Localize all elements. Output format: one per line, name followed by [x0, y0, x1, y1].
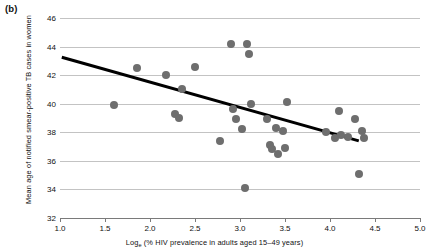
x-tick-label: 4.5 — [355, 224, 395, 233]
figure-panel-b: (b) Mean age of notified smear-positive … — [0, 0, 429, 252]
data-point — [322, 128, 330, 136]
data-point — [344, 133, 352, 141]
x-tick-mark — [240, 218, 241, 222]
y-tick-label: 40 — [30, 99, 56, 108]
data-point — [279, 127, 287, 135]
x-tick-mark — [105, 218, 106, 222]
x-axis-tick-labels: 1.01.52.02.53.03.54.04.55.0 — [60, 218, 420, 238]
y-tick-label: 38 — [30, 128, 56, 137]
x-axis-title-prefix: Log — [126, 238, 139, 247]
x-tick-mark — [195, 218, 196, 222]
data-point — [355, 170, 363, 178]
x-axis-title: Loge (% HIV prevalence in adults aged 15… — [0, 238, 429, 248]
x-tick-label: 2.0 — [130, 224, 170, 233]
data-point — [175, 114, 183, 122]
x-tick-label: 1.0 — [40, 224, 80, 233]
x-tick-mark — [330, 218, 331, 222]
data-point — [281, 144, 289, 152]
x-tick-label: 3.0 — [220, 224, 260, 233]
data-point — [241, 184, 249, 192]
plot-area — [60, 18, 420, 218]
x-tick-label: 1.5 — [85, 224, 125, 233]
data-point — [191, 63, 199, 71]
x-axis-title-rest: (% HIV prevalence in adults aged 15–49 y… — [142, 238, 304, 247]
x-tick-mark — [285, 218, 286, 222]
y-tick-label: 34 — [30, 185, 56, 194]
data-point — [274, 150, 282, 158]
x-tick-mark — [150, 218, 151, 222]
x-tick-mark — [420, 218, 421, 222]
y-tick-label: 36 — [30, 156, 56, 165]
data-point — [243, 40, 251, 48]
data-point — [335, 107, 343, 115]
y-tick-label: 46 — [30, 14, 56, 23]
y-tick-label: 32 — [30, 214, 56, 223]
x-tick-mark — [375, 218, 376, 222]
data-point — [133, 64, 141, 72]
y-tick-label: 42 — [30, 71, 56, 80]
x-tick-label: 5.0 — [400, 224, 429, 233]
data-point — [216, 137, 224, 145]
data-point — [245, 50, 253, 58]
x-tick-label: 3.5 — [265, 224, 305, 233]
y-tick-label: 44 — [30, 42, 56, 51]
x-tick-mark — [60, 218, 61, 222]
panel-label: (b) — [5, 3, 18, 14]
data-point — [232, 115, 240, 123]
x-tick-label: 2.5 — [175, 224, 215, 233]
y-axis-tick-labels: 3234363840424446 — [28, 18, 56, 218]
data-point — [227, 40, 235, 48]
data-point — [247, 100, 255, 108]
x-tick-label: 4.0 — [310, 224, 350, 233]
